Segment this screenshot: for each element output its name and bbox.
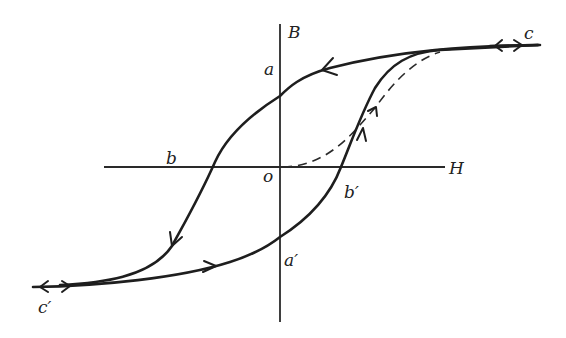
hysteresis-diagram: B H o a a′ b b′ c c′: [0, 0, 566, 338]
label-point-a: a: [264, 59, 274, 79]
label-h-axis: H: [448, 158, 465, 178]
c-tip: [490, 45, 540, 46]
label-b-axis: B: [287, 22, 301, 42]
label-point-b: b: [166, 148, 177, 168]
label-point-b-prime: b′: [344, 182, 359, 202]
arrow-icon-ascending-right: [357, 128, 366, 141]
label-origin: o: [263, 166, 273, 186]
initial-magnetization-curve: [283, 52, 440, 167]
label-point-a-prime: a′: [284, 250, 298, 270]
label-point-c: c: [524, 23, 534, 43]
label-point-c-prime: c′: [38, 297, 52, 317]
